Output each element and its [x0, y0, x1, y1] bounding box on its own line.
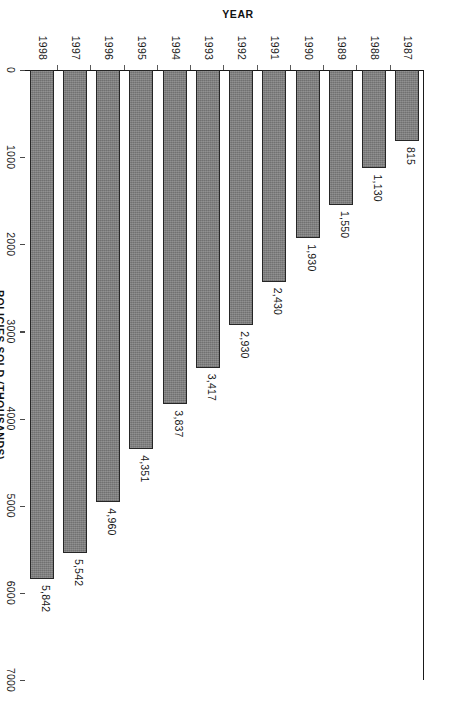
category-axis-label: 1987	[402, 0, 414, 60]
category-axis-label: 1991	[269, 0, 281, 60]
bar-value-label: 4,960	[106, 508, 118, 535]
bar-row: 1,930	[296, 70, 320, 680]
bar-row: 4,351	[129, 70, 153, 680]
value-axis: 01000200030004000500060007000	[24, 70, 25, 680]
category-axis-label: 1997	[70, 0, 82, 60]
category-axis-label: 1989	[336, 0, 348, 60]
category-axis-tick	[190, 65, 191, 70]
bar-value-label: 3,417	[206, 374, 218, 401]
category-axis-tick	[90, 65, 91, 70]
bar[interactable]	[229, 70, 253, 325]
bar-row: 815	[395, 70, 419, 680]
bar-value-label: 2,430	[272, 288, 284, 315]
bar-value-label: 5,542	[73, 559, 85, 586]
value-axis-tick	[20, 680, 25, 681]
value-axis-title: POLICIES SOLD (THOUSANDS)	[0, 70, 6, 680]
bar-row: 4,960	[96, 70, 120, 680]
category-axis-label: 1992	[236, 0, 248, 60]
bar-value-label: 815	[405, 147, 417, 165]
bar-row: 1,130	[362, 70, 386, 680]
category-axis-label: 1998	[37, 0, 49, 60]
bar[interactable]	[296, 70, 320, 238]
category-axis-tick	[124, 65, 125, 70]
bar-row: 5,842	[30, 70, 54, 680]
bar[interactable]	[362, 70, 386, 168]
category-axis-tick	[390, 65, 391, 70]
bar[interactable]	[30, 70, 54, 579]
category-axis-tick	[157, 65, 158, 70]
value-axis-tick-label: 0	[5, 67, 17, 73]
value-axis-tick	[20, 419, 25, 420]
bar-row: 5,542	[63, 70, 87, 680]
category-axis-label: 1995	[136, 0, 148, 60]
value-axis-tick	[20, 506, 25, 507]
category-axis-label: 1994	[170, 0, 182, 60]
rotated-chart-wrapper: 01000200030004000500060007000 POLICIES S…	[0, 0, 474, 706]
bar-value-label: 1,930	[306, 244, 318, 271]
bar-value-label: 4,351	[139, 455, 151, 482]
bar-value-label: 2,930	[239, 331, 251, 358]
value-axis-tick-label: 1000	[5, 145, 17, 169]
bar-value-label: 1,550	[339, 211, 351, 238]
bar-row: 3,417	[196, 70, 220, 680]
value-axis-tick-label: 7000	[5, 668, 17, 692]
bar[interactable]	[163, 70, 187, 404]
category-axis-label: 1988	[369, 0, 381, 60]
category-axis-tick	[257, 65, 258, 70]
bar-chart: 01000200030004000500060007000 POLICIES S…	[0, 0, 474, 706]
bar-value-label: 5,842	[40, 585, 52, 612]
bar[interactable]	[129, 70, 153, 449]
bar[interactable]	[329, 70, 353, 205]
category-axis-tick	[323, 65, 324, 70]
category-axis-tick	[290, 65, 291, 70]
bar[interactable]	[63, 70, 87, 553]
value-axis-tick	[20, 244, 25, 245]
value-axis-tick-label: 5000	[5, 494, 17, 518]
category-axis-label: 1996	[103, 0, 115, 60]
bar-row: 3,837	[163, 70, 187, 680]
category-axis-tick	[223, 65, 224, 70]
value-axis-tick-label: 6000	[5, 581, 17, 605]
category-axis-label: 1993	[203, 0, 215, 60]
category-axis-tick	[57, 65, 58, 70]
bar-row: 2,430	[262, 70, 286, 680]
value-axis-tick	[20, 593, 25, 594]
bar-row: 1,550	[329, 70, 353, 680]
bar-value-label: 1,130	[372, 174, 384, 201]
bar-row: 2,930	[229, 70, 253, 680]
value-axis-tick-label: 4000	[5, 406, 17, 430]
bar[interactable]	[196, 70, 220, 368]
value-axis-tick-label: 2000	[5, 232, 17, 256]
value-axis-tick	[20, 331, 25, 332]
bar[interactable]	[395, 70, 419, 141]
value-axis-tick-label: 3000	[5, 319, 17, 343]
bar-value-label: 3,837	[173, 410, 185, 437]
bar[interactable]	[96, 70, 120, 502]
bar[interactable]	[262, 70, 286, 282]
value-axis-tick	[20, 70, 25, 71]
category-axis-tick	[356, 65, 357, 70]
value-axis-tick	[20, 157, 25, 158]
category-axis-label: 1990	[303, 0, 315, 60]
